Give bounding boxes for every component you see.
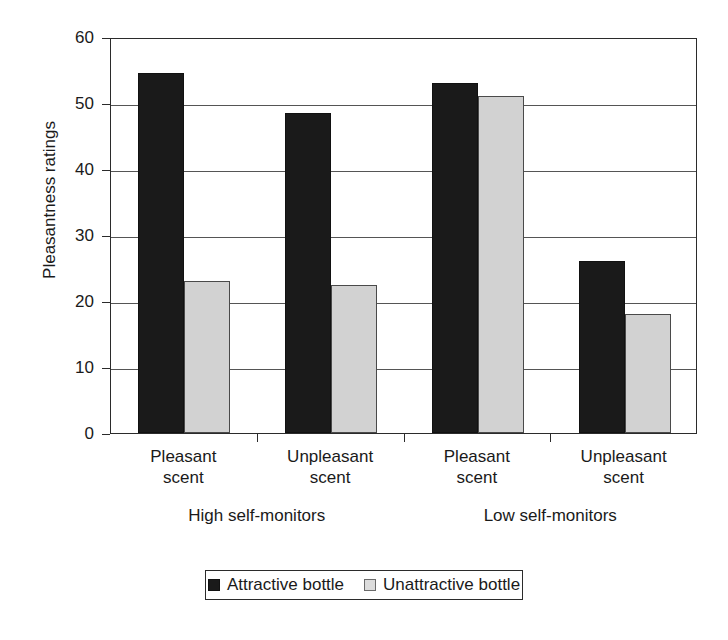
bar [285,113,331,433]
y-axis-tick-mark [102,236,110,237]
y-axis-tick-label: 40 [24,160,94,180]
x-axis-category-label-line: scent [404,467,551,488]
x-axis-category-label: Unpleasantscent [550,446,697,488]
legend: Attractive bottle Unattractive bottle [205,570,523,600]
y-axis-tick-label: 0 [24,424,94,444]
y-axis-tick-label: 30 [24,226,94,246]
x-axis-separator-tick [404,434,405,442]
x-axis-separator-tick [550,434,551,442]
y-axis-tick-mark [102,434,110,435]
legend-item-unattractive-bottle: Unattractive bottle [364,575,520,595]
y-axis-tick-mark [102,170,110,171]
x-axis-category-label-line: Pleasant [404,446,551,467]
x-axis-category-label: Pleasantscent [110,446,257,488]
gridline [111,237,696,238]
y-axis-tick-mark [102,368,110,369]
gridline [111,105,696,106]
x-axis-category-label: Pleasantscent [404,446,551,488]
x-axis-category-label-line: Unpleasant [257,446,404,467]
x-axis-category-label-line: scent [550,467,697,488]
y-axis-tick-label: 20 [24,292,94,312]
bar [138,73,184,433]
y-axis-tick-mark [102,302,110,303]
x-axis-group-label: High self-monitors [110,506,404,526]
x-axis-group-label: Low self-monitors [404,506,698,526]
y-axis-tick-mark [102,38,110,39]
bar [432,83,478,433]
legend-item-attractive-bottle: Attractive bottle [208,575,344,595]
bar-chart: Pleasantness ratings 6050403020100 Pleas… [0,0,728,640]
x-axis-category-label-line: scent [110,467,257,488]
bar [625,314,671,433]
x-axis-category-label-line: Pleasant [110,446,257,467]
y-axis-tick-label: 50 [24,94,94,114]
x-axis-category-label-line: scent [257,467,404,488]
bar [579,261,625,433]
bar [478,96,524,433]
y-axis-tick-label: 10 [24,358,94,378]
y-axis-title: Pleasantness ratings [40,80,60,320]
legend-swatch-light-square-icon [364,579,376,591]
x-axis-category-label-line: Unpleasant [550,446,697,467]
x-axis-separator-tick [257,434,258,442]
gridline [111,171,696,172]
x-axis-category-label: Unpleasantscent [257,446,404,488]
y-axis-tick-mark [102,104,110,105]
plot-area [110,38,697,434]
bar [184,281,230,433]
y-axis-tick-label: 60 [24,28,94,48]
legend-label-attractive-bottle: Attractive bottle [227,575,344,595]
bar [331,285,377,434]
legend-label-unattractive-bottle: Unattractive bottle [383,575,520,595]
legend-swatch-dark-square-icon [208,579,220,591]
